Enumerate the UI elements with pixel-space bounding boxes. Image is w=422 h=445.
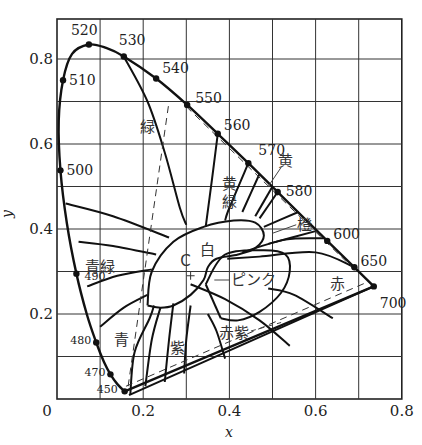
green-boundary [124,56,186,224]
cie-chromaticity-diagram: 4504704804905005105205305405505605705806… [0,0,422,445]
wavelength-dot [121,53,127,59]
wavelength-label: 470 [84,366,105,379]
wavelength-label: 550 [195,90,222,106]
x-tick-label: 0.2 [131,402,155,420]
wavelength-dot [274,189,280,195]
region-label: 赤 [330,275,345,293]
wavelength-label: 530 [119,32,146,48]
wavelength-label: 560 [224,117,251,133]
region-label: 黄 [222,175,237,193]
white-point-label: C [180,252,190,270]
region-label: 橙 [297,216,312,234]
region-label: 緑 [140,118,155,136]
y-axis-label: y [0,209,15,219]
y-tick-label: 0.6 [29,135,53,153]
wavelength-dot [351,264,357,270]
wavelength-dot [324,238,330,244]
wavelength-dot [107,371,113,377]
wavelength-dot [86,41,92,47]
wavelength-dot [153,75,159,81]
green-bluegreen-boundary [66,204,169,238]
region-label: 緑 [222,193,237,211]
wavelength-dot [93,339,99,345]
y-tick-label: 0.8 [29,50,53,68]
orange-boundary-1 [264,212,298,227]
wavelength-dot [245,160,251,166]
wavelength-label: 700 [380,295,407,311]
white-region-boundary [148,220,264,307]
wavelength-label: 650 [360,253,387,269]
region-label: 紫 [170,339,185,357]
wavelength-dot [184,102,190,108]
wavelength-label: 600 [333,226,360,242]
yellowgreen-boundary [206,134,218,227]
purple-line [129,286,374,395]
x-tick-label: 0.6 [304,402,328,420]
wavelength-label: 520 [71,22,98,38]
wavelength-dot [57,167,63,173]
wavelength-dot [215,131,221,137]
x-tick-label: 0.4 [217,402,241,420]
region-label: 黄 [278,152,293,170]
wavelength-dot [73,270,79,276]
y-tick-label: 0.2 [29,305,53,323]
yellow-split-1 [242,174,259,212]
region-label: 赤紫 [219,324,249,342]
region-label: 青緑 [85,258,115,276]
wavelength-label: 510 [69,72,96,88]
x-axis-label: x [225,424,233,440]
wavelength-label: 580 [286,183,313,199]
pink-region-edge [206,284,221,318]
bluegreen-top-boundary [79,242,157,255]
region-label: ピンク [231,271,276,289]
wavelength-dot [121,388,127,394]
wavelength-label: 540 [162,60,189,76]
x-tick-label: 0 [42,402,52,420]
x-tick-label: 0.8 [390,402,414,420]
yellow-leader-line [268,167,281,186]
y-tick-label: 0.4 [29,220,53,238]
wavelength-label: 450 [97,383,118,396]
wavelength-label: 480 [70,334,91,347]
wavelength-label: 500 [66,162,93,178]
region-label: 青 [114,331,129,349]
region-label: 白 [200,241,215,259]
wavelength-dot [371,283,377,289]
wavelength-dot [60,77,66,83]
